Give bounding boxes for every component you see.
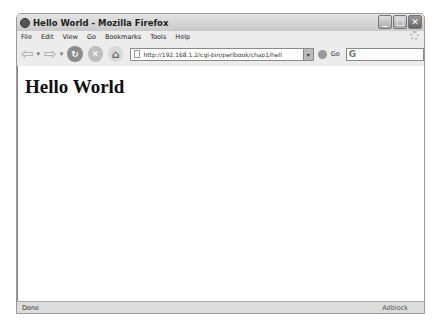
- page-heading: Hello World: [25, 76, 124, 98]
- google-search-icon[interactable]: G: [349, 49, 356, 59]
- stop-button[interactable]: ✕: [88, 46, 103, 62]
- home-button[interactable]: ⌂: [108, 46, 123, 62]
- url-input[interactable]: http://192.168.1.2/cgi-bin/perlbook/chap…: [143, 51, 302, 58]
- firefox-icon: [20, 18, 30, 28]
- menu-view[interactable]: View: [62, 33, 77, 41]
- menu-tools[interactable]: Tools: [150, 33, 166, 41]
- navigation-toolbar: ⇦ ▾ ⇨ ▾ ↻ ✕ ⌂ http://192.168.1.2/cgi-bin…: [17, 42, 424, 67]
- forward-button[interactable]: ⇨: [44, 46, 57, 62]
- minimize-button[interactable]: _: [378, 15, 392, 29]
- menu-bar: File Edit View Go Bookmarks Tools Help: [17, 31, 424, 42]
- window-title: Hello World - Mozilla Firefox: [33, 18, 168, 28]
- back-button[interactable]: ⇦: [21, 46, 34, 62]
- search-input[interactable]: G: [346, 48, 424, 61]
- menu-help[interactable]: Help: [175, 33, 190, 41]
- menu-bookmarks[interactable]: Bookmarks: [105, 33, 141, 41]
- menu-edit[interactable]: Edit: [41, 33, 54, 41]
- page-content: Hello World: [17, 66, 424, 303]
- go-button[interactable]: Go: [318, 50, 340, 59]
- go-label: Go: [331, 50, 340, 58]
- go-arrow-icon: [318, 50, 327, 59]
- reload-button[interactable]: ↻: [67, 46, 82, 62]
- adblock-button[interactable]: Adblock: [382, 304, 408, 312]
- maximize-button[interactable]: □: [393, 15, 407, 29]
- status-text: Done: [22, 304, 39, 312]
- menu-go[interactable]: Go: [87, 33, 96, 41]
- url-bar[interactable]: http://192.168.1.2/cgi-bin/perlbook/chap…: [130, 48, 313, 61]
- back-history-dropdown[interactable]: ▾: [37, 50, 41, 58]
- menu-file[interactable]: File: [21, 33, 32, 41]
- close-button[interactable]: ✕: [408, 15, 422, 29]
- window-controls: _ □ ✕: [378, 15, 422, 29]
- throbber-icon: [410, 31, 419, 40]
- browser-window: Hello World - Mozilla Firefox _ □ ✕ File…: [16, 13, 425, 314]
- title-bar[interactable]: Hello World - Mozilla Firefox _ □ ✕: [17, 14, 424, 31]
- page-icon: [134, 50, 140, 58]
- forward-history-dropdown[interactable]: ▾: [60, 50, 64, 58]
- status-bar: Done Adblock: [17, 301, 424, 313]
- url-dropdown-button[interactable]: ▾: [303, 49, 313, 60]
